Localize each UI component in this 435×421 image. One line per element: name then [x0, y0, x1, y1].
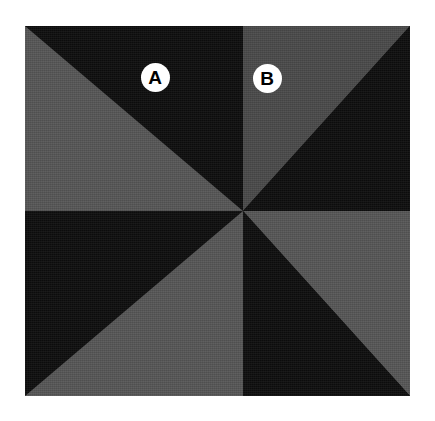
- pinwheel-panel: A B: [25, 26, 410, 396]
- figure-root: A B: [0, 0, 435, 421]
- sector-group: [25, 26, 410, 396]
- region-label-b: B: [253, 64, 282, 93]
- region-label-a: A: [141, 63, 170, 92]
- pinwheel-graphic: [25, 26, 410, 396]
